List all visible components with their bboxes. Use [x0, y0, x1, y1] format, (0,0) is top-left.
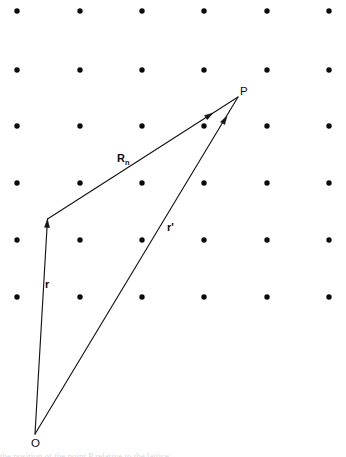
lattice-dot-grid	[14, 8, 331, 299]
lattice-dot	[139, 294, 144, 299]
vector-label-rprime: r'	[167, 221, 174, 233]
vector-label-Rn: Rn	[117, 152, 130, 167]
point-label-origin: O	[31, 437, 40, 449]
vector-group	[35, 97, 238, 434]
vector-label-r: r	[45, 278, 50, 290]
lattice-dot	[14, 67, 19, 72]
vector-label-subscript-Rn: n	[125, 158, 130, 167]
lattice-dot	[326, 8, 331, 13]
lattice-dot	[139, 237, 144, 242]
lattice-dot	[264, 123, 269, 128]
lattice-dot	[201, 294, 206, 299]
arrowhead-r	[44, 219, 49, 228]
lattice-dot	[326, 237, 331, 242]
lattice-dot	[14, 123, 19, 128]
arrowhead-rprime	[220, 116, 227, 125]
lattice-dot	[201, 67, 206, 72]
lattice-dot	[264, 67, 269, 72]
lattice-dot	[201, 180, 206, 185]
vector-lattice-figure: rRnr'OP the position of the point P rela…	[0, 0, 346, 457]
lattice-dot	[264, 180, 269, 185]
vector-line-r	[35, 219, 48, 434]
lattice-dot	[264, 294, 269, 299]
label-group: rRnr'OP	[31, 85, 248, 449]
lattice-dot	[264, 237, 269, 242]
lattice-dot	[326, 123, 331, 128]
lattice-dot	[14, 8, 19, 13]
lattice-dot	[139, 123, 144, 128]
lattice-dot	[139, 8, 144, 13]
lattice-dot	[14, 237, 19, 242]
lattice-dot	[201, 237, 206, 242]
lattice-dot	[77, 294, 82, 299]
figure-canvas: rRnr'OP	[0, 0, 346, 457]
lattice-dot	[77, 180, 82, 185]
lattice-dot	[77, 8, 82, 13]
lattice-dot	[326, 180, 331, 185]
cut-off-caption: the position of the point P relative to …	[0, 450, 346, 457]
lattice-dot	[77, 237, 82, 242]
lattice-dot	[201, 123, 206, 128]
lattice-dot	[326, 67, 331, 72]
lattice-dot	[264, 8, 269, 13]
vector-line-rprime	[35, 97, 238, 434]
lattice-dot	[14, 294, 19, 299]
arrowhead-Rn	[204, 113, 213, 120]
lattice-dot	[139, 180, 144, 185]
lattice-dot	[77, 123, 82, 128]
lattice-dot	[201, 8, 206, 13]
lattice-dot	[77, 67, 82, 72]
lattice-dot	[326, 294, 331, 299]
lattice-dot	[14, 180, 19, 185]
lattice-dot	[139, 67, 144, 72]
point-label-field-point: P	[240, 85, 248, 97]
